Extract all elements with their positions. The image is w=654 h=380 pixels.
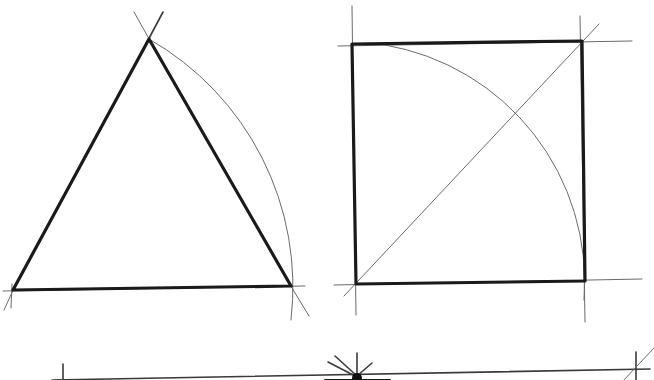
bottom-right-diagonal (622, 348, 654, 380)
equilateral-triangle (13, 39, 291, 290)
construction-star-icon (325, 353, 390, 380)
geometric-construction-diagram (0, 0, 654, 380)
equilateral-triangle-figure (3, 12, 309, 320)
square-diagonal-line (344, 24, 599, 296)
square-quarter-arc (385, 45, 585, 300)
triangle-construction-arc (149, 39, 293, 320)
bottom-left-tick-line (11, 284, 12, 308)
bottom-construction-figure (52, 348, 654, 380)
square-figure (334, 6, 642, 322)
